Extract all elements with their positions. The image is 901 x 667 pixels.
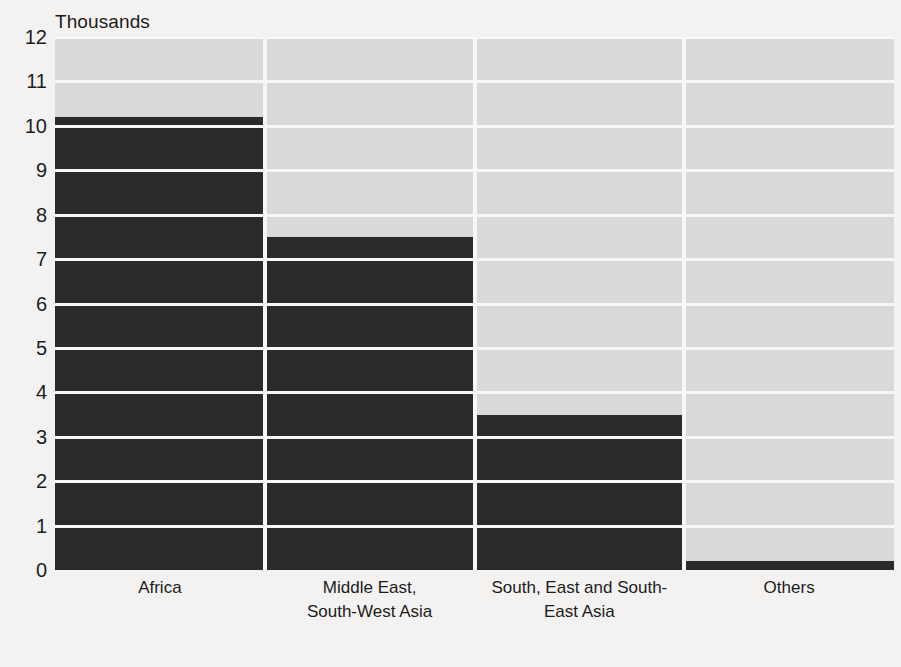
x-axis-category-label: Middle East,South-West Asia bbox=[265, 576, 475, 624]
y-axis-tick-label: 10 bbox=[0, 116, 47, 136]
y-axis-tick-label: 6 bbox=[0, 294, 47, 314]
x-axis-category-label: Others bbox=[684, 576, 894, 600]
y-axis-tick-label: 9 bbox=[0, 160, 47, 180]
x-axis-label-line: Others bbox=[684, 576, 894, 600]
bar-chart: Thousands 1211109876543210 AfricaMiddle … bbox=[0, 0, 901, 667]
y-axis-tick-label: 1 bbox=[0, 516, 47, 536]
y-axis-tick-label: 3 bbox=[0, 427, 47, 447]
x-axis-label-line: East Asia bbox=[475, 600, 685, 624]
y-axis: 1211109876543210 bbox=[0, 37, 47, 570]
y-axis-tick-label: 4 bbox=[0, 382, 47, 402]
y-axis-tick-label: 8 bbox=[0, 205, 47, 225]
x-axis: AfricaMiddle East,South-West AsiaSouth, … bbox=[55, 576, 894, 656]
plot-area bbox=[55, 37, 894, 570]
x-axis-label-line: South-West Asia bbox=[265, 600, 475, 624]
x-axis-category-label: Africa bbox=[55, 576, 265, 600]
unit-caption: Thousands bbox=[55, 11, 150, 33]
y-axis-tick-label: 11 bbox=[0, 71, 47, 91]
bars-layer bbox=[55, 37, 894, 570]
x-axis-label-line: South, East and South- bbox=[475, 576, 685, 600]
y-axis-tick-label: 0 bbox=[0, 560, 47, 580]
y-axis-tick-label: 2 bbox=[0, 471, 47, 491]
y-axis-tick-label: 5 bbox=[0, 338, 47, 358]
y-axis-tick-label: 7 bbox=[0, 249, 47, 269]
bar bbox=[684, 561, 894, 570]
x-axis-label-line: Africa bbox=[55, 576, 265, 600]
bar bbox=[55, 117, 265, 570]
y-axis-tick-label: 12 bbox=[0, 27, 47, 47]
x-axis-label-line: Middle East, bbox=[265, 576, 475, 600]
bar bbox=[475, 415, 685, 570]
bar bbox=[265, 237, 475, 570]
x-axis-category-label: South, East and South-East Asia bbox=[475, 576, 685, 624]
